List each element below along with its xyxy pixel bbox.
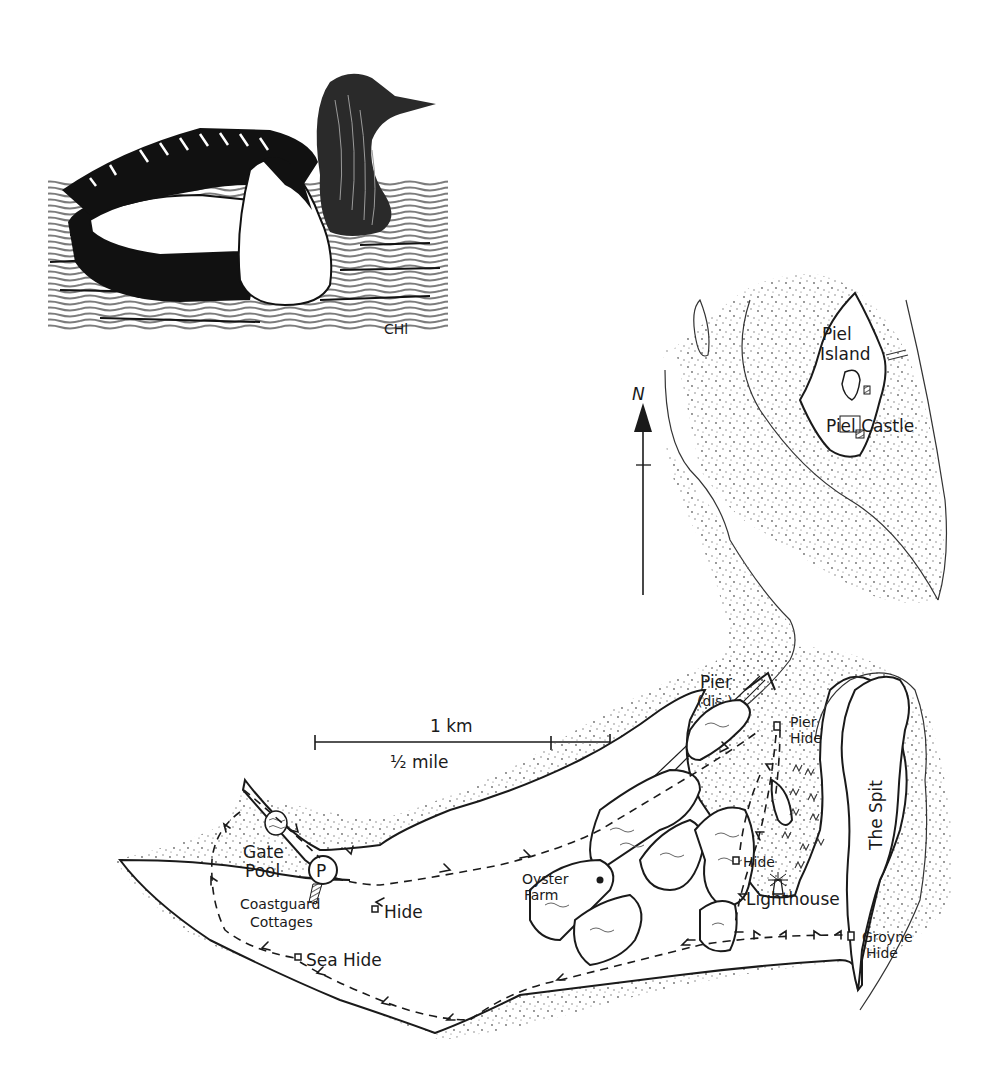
label-hide-west: Hide — [384, 902, 423, 922]
hide-central-icon[interactable] — [733, 857, 739, 864]
groyne-hide-icon[interactable] — [848, 932, 854, 940]
map-canvas: CHl N Piel Island Piel Castle — [0, 0, 988, 1089]
label-pier-hide-2: Hide — [790, 730, 822, 746]
label-pier-hide-1: Pier — [790, 714, 817, 730]
label-groyne-hide-2: Hide — [866, 945, 898, 961]
label-lighthouse: Lighthouse — [746, 889, 840, 909]
building-icon — [864, 386, 870, 394]
label-the-spit: The Spit — [866, 780, 886, 851]
svg-text:P: P — [316, 861, 326, 881]
north-arrow: N — [632, 384, 652, 595]
label-oyster-farm-1: Oyster — [522, 871, 569, 887]
sea-hide-icon[interactable] — [295, 954, 301, 960]
south-walney: Pier (dis.) Gate Pool P — [115, 647, 953, 1040]
label-sea-hide: Sea Hide — [306, 950, 382, 970]
oyster-farm-marker — [597, 877, 604, 884]
label-coastguard-1: Coastguard — [240, 896, 320, 912]
pier-hide-icon[interactable] — [774, 722, 780, 730]
gate-pool — [265, 811, 287, 835]
hide-west-icon[interactable] — [372, 906, 378, 912]
label-gate-pool-2: Pool — [245, 861, 280, 881]
label-piel-island-1: Piel — [822, 324, 852, 344]
piel-area: Piel Island Piel Castle — [660, 274, 946, 603]
north-label: N — [632, 384, 645, 404]
label-groyne-hide-1: Groyne — [862, 929, 913, 945]
scale-mile-label: ½ mile — [390, 752, 448, 772]
scale-km-label: 1 km — [430, 716, 473, 736]
parking-icon[interactable]: P — [309, 856, 337, 884]
label-piel-island-2: Island — [820, 344, 871, 364]
label-pier-1: Pier — [700, 672, 732, 692]
label-gate-pool-1: Gate — [243, 842, 284, 862]
label-piel-castle: Piel Castle — [826, 416, 914, 436]
label-oyster-farm-2: Farm — [524, 887, 559, 903]
label-hide-central: Hide — [743, 854, 775, 870]
label-coastguard-2: Cottages — [250, 914, 313, 930]
sandbank-north — [660, 274, 944, 603]
artist-signature: CHl — [384, 321, 408, 337]
duck-illustration: CHl — [48, 74, 448, 337]
